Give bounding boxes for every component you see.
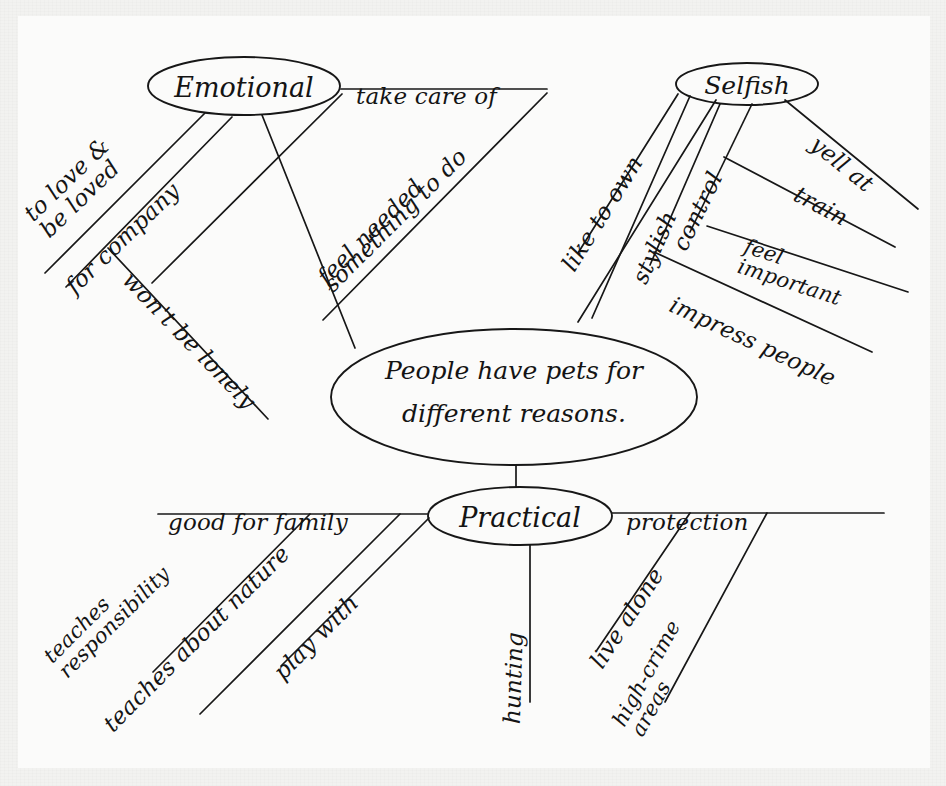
node-label-practical: Practical — [428, 500, 612, 535]
branchline-feel-needed — [152, 94, 342, 283]
node-label-emotional: Emotional — [148, 70, 340, 105]
branch-label-hunting: hunting — [500, 632, 528, 725]
node-label-selfish: Selfish — [676, 70, 818, 103]
node-label-center-line2: different reasons. — [364, 398, 664, 431]
node-label-center-line1: People have pets for — [364, 355, 664, 388]
branch-label-protection: protection — [626, 510, 749, 534]
mind-map-drawing — [0, 0, 946, 786]
node-ellipse-center — [331, 329, 697, 465]
branchline-something-to-do — [323, 93, 547, 320]
mind-map-page: Emotional Selfish Practical People have … — [0, 0, 946, 786]
branch-label-good-for-family: good for family — [168, 510, 348, 534]
branch-label-take-care-of: take care of — [356, 84, 497, 108]
connector-emotional-to-center — [262, 115, 355, 348]
